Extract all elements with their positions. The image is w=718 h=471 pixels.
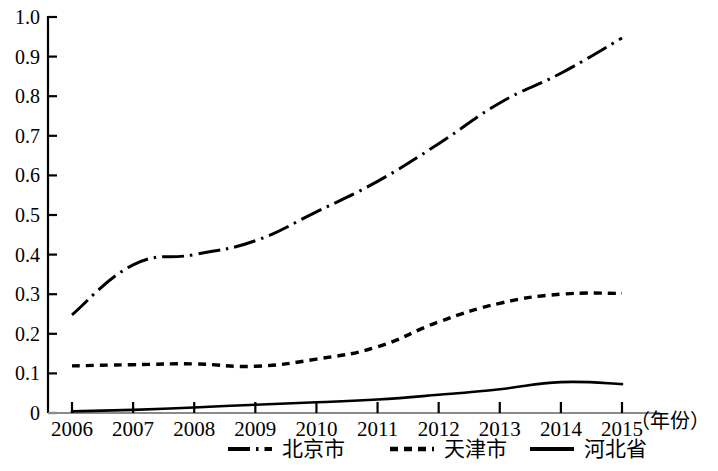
x-axis-tick-label: 2006 [51, 417, 93, 441]
y-axis-ticks [48, 17, 57, 413]
y-axis-tick-label: 0.8 [15, 85, 40, 107]
x-axis-tick-label: 2007 [112, 417, 154, 441]
y-axis-tick-label: 0.9 [15, 46, 40, 68]
y-axis-tick-label: 0.4 [15, 244, 40, 266]
x-axis-tick-label: 2011 [357, 417, 398, 441]
series-line-1 [72, 38, 622, 315]
x-axis-tick-label: 2008 [173, 417, 215, 441]
y-axis-tick-label: 0.2 [15, 323, 40, 345]
x-axis-name-label: （年份） [630, 410, 710, 432]
x-axis-tick-label: 2009 [234, 417, 276, 441]
y-axis-tick-labels: 1.00.90.80.70.60.50.40.30.20.10 [15, 6, 40, 424]
x-axis-ticks [72, 402, 622, 413]
y-axis-tick-label: 0.7 [15, 125, 40, 147]
x-axis-tick-label: 2014 [540, 417, 583, 441]
x-axis-tick-labels: 2006200720082009201020112012201320142015 [51, 417, 643, 441]
y-axis-tick-label: 0.3 [15, 283, 40, 305]
data-series-group [72, 38, 622, 411]
series-line-2 [72, 293, 622, 366]
y-axis-tick-label: 0 [30, 402, 40, 424]
y-axis-tick-label: 0.1 [15, 362, 40, 384]
chart-canvas: 1.00.90.80.70.60.50.40.30.20.10 20062007… [0, 0, 718, 471]
y-axis-tick-label: 0.6 [15, 164, 40, 186]
legend-label-1: 北京市 [282, 437, 345, 461]
legend-label-3: 河北省 [584, 437, 647, 461]
line-chart: 1.00.90.80.70.60.50.40.30.20.10 20062007… [0, 0, 718, 471]
y-axis-tick-label: 0.5 [15, 204, 40, 226]
legend-label-2: 天津市 [444, 437, 507, 461]
series-line-3 [72, 382, 622, 412]
y-axis-tick-label: 1.0 [15, 6, 40, 28]
